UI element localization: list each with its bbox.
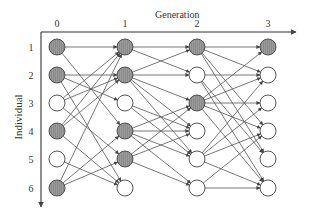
- generation-label: 2: [195, 18, 200, 29]
- generation-label: 0: [55, 18, 60, 29]
- edge: [204, 78, 260, 100]
- edge: [131, 136, 190, 183]
- individual-label: 4: [29, 126, 34, 137]
- shaded-node: [49, 39, 65, 55]
- empty-node: [189, 151, 205, 167]
- empty-node: [260, 123, 276, 139]
- empty-node: [189, 180, 205, 196]
- edge: [132, 162, 189, 185]
- edge: [204, 134, 260, 156]
- empty-node: [117, 180, 133, 196]
- edge: [203, 108, 261, 154]
- edge: [202, 109, 263, 182]
- individual-label: 3: [29, 98, 34, 109]
- empty-node: [260, 151, 276, 167]
- generation-diagram: Generation Individual 0123 123456: [0, 0, 310, 219]
- edge: [132, 78, 189, 100]
- individual-label: 2: [29, 70, 34, 81]
- shaded-node: [260, 39, 276, 55]
- shaded-node: [117, 67, 133, 83]
- generation-label: 1: [123, 18, 128, 29]
- empty-node: [260, 95, 276, 111]
- edge: [60, 54, 121, 181]
- shaded-node: [189, 39, 205, 55]
- edge: [63, 80, 119, 126]
- y-axis-title: Individual: [12, 94, 24, 139]
- empty-node: [189, 67, 205, 83]
- x-axis-title: Generation: [155, 9, 199, 20]
- edge: [204, 162, 260, 185]
- empty-node: [49, 151, 65, 167]
- empty-node: [260, 180, 276, 196]
- individual-label: 1: [29, 42, 34, 53]
- empty-node: [260, 67, 276, 83]
- individual-label: 5: [29, 154, 34, 165]
- edge: [63, 108, 119, 154]
- shaded-node: [117, 151, 133, 167]
- individual-labels: 123456: [29, 42, 34, 194]
- empty-node: [189, 123, 205, 139]
- individual-label: 6: [29, 183, 34, 194]
- edges: [60, 47, 263, 188]
- edge: [204, 50, 260, 72]
- shaded-node: [117, 39, 133, 55]
- empty-node: [49, 95, 65, 111]
- shaded-node: [49, 180, 65, 196]
- empty-node: [117, 95, 133, 111]
- shaded-node: [189, 95, 205, 111]
- shaded-node: [49, 123, 65, 139]
- generation-label: 3: [266, 18, 271, 29]
- edge: [131, 80, 190, 126]
- edge: [203, 136, 262, 183]
- shaded-node: [117, 123, 133, 139]
- shaded-node: [49, 67, 65, 83]
